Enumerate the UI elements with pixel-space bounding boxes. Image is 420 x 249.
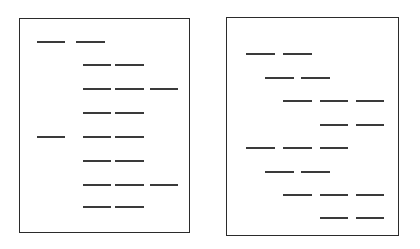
text-line-dash <box>356 100 384 102</box>
text-line-dash <box>283 147 312 149</box>
text-line-dash <box>150 184 178 186</box>
text-line-dash <box>301 77 330 79</box>
left-page <box>19 18 190 233</box>
text-line-dash <box>83 136 111 138</box>
text-line-dash <box>320 100 348 102</box>
text-line-dash <box>115 206 144 208</box>
text-line-dash <box>83 88 111 90</box>
text-line-dash <box>115 88 144 90</box>
text-line-dash <box>115 184 144 186</box>
text-line-dash <box>83 112 111 114</box>
text-line-dash <box>283 194 312 196</box>
diagram-canvas <box>0 0 420 249</box>
text-line-dash <box>37 136 65 138</box>
text-line-dash <box>83 160 111 162</box>
text-line-dash <box>320 147 348 149</box>
text-line-dash <box>115 136 144 138</box>
text-line-dash <box>246 53 275 55</box>
text-line-dash <box>356 217 384 219</box>
text-line-dash <box>356 124 384 126</box>
text-line-dash <box>320 124 348 126</box>
text-line-dash <box>115 112 144 114</box>
text-line-dash <box>37 41 65 43</box>
text-line-dash <box>320 217 348 219</box>
text-line-dash <box>115 64 144 66</box>
text-line-dash <box>246 147 275 149</box>
text-line-dash <box>301 171 330 173</box>
text-line-dash <box>320 194 348 196</box>
text-line-dash <box>115 160 144 162</box>
right-page <box>226 17 399 236</box>
text-line-dash <box>76 41 105 43</box>
text-line-dash <box>83 184 111 186</box>
text-line-dash <box>356 194 384 196</box>
text-line-dash <box>283 100 312 102</box>
text-line-dash <box>83 64 111 66</box>
text-line-dash <box>283 53 312 55</box>
text-line-dash <box>83 206 111 208</box>
text-line-dash <box>265 77 294 79</box>
text-line-dash <box>265 171 294 173</box>
text-line-dash <box>150 88 178 90</box>
